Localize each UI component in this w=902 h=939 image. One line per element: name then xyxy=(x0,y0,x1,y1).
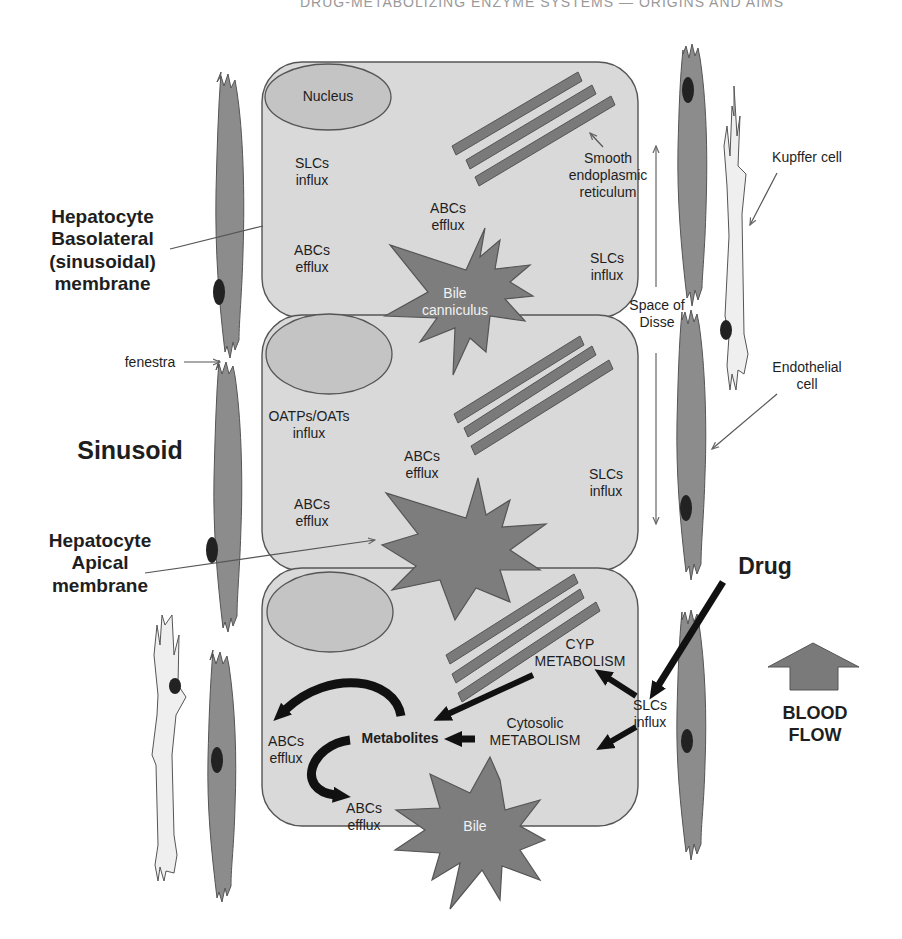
cell3-slcs-influx: SLCs influx xyxy=(620,697,680,731)
endothelial-cell-left-1 xyxy=(213,72,244,358)
cell1-slcs-influx-left: SLCs influx xyxy=(282,155,342,189)
kupffer-cell-left xyxy=(152,615,186,881)
blood-flow-label: BLOOD FLOW xyxy=(760,703,870,746)
fenestra-label: fenestra xyxy=(115,354,185,371)
bile-label: Bile xyxy=(445,818,505,835)
endothelial-pointer-arrow xyxy=(712,394,777,449)
endothelial-cell-label: Endothelial cell xyxy=(762,359,852,393)
nucleus-label: Nucleus xyxy=(290,88,366,105)
endothelial-cell-right-1 xyxy=(678,44,707,306)
nucleus-2 xyxy=(266,314,392,394)
basolateral-membrane-label: Hepatocyte Basolateral (sinusoidal) memb… xyxy=(30,206,175,296)
bile-canniculus-label: Bile canniculus xyxy=(405,285,505,319)
cell2-abcs-efflux-center: ABCs efflux xyxy=(392,448,452,482)
endothelial-cell-right-2 xyxy=(677,310,706,580)
oatps-oats-influx-label: OATPs/OATs influx xyxy=(262,408,356,442)
cell2-slcs-influx-right: SLCs influx xyxy=(576,466,636,500)
cell2-abcs-efflux-left: ABCs efflux xyxy=(282,496,342,530)
cytosolic-metabolism-label: Cytosolic METABOLISM xyxy=(470,715,600,749)
cell1-abcs-efflux-center: ABCs efflux xyxy=(418,200,478,234)
endothelial-cell-left-2 xyxy=(206,360,242,632)
kupffer-cell-right xyxy=(720,86,748,390)
space-of-disse-label: Space of Disse xyxy=(627,297,687,331)
kupffer-cell-label: Kupffer cell xyxy=(762,149,852,166)
sinusoid-label: Sinusoid xyxy=(60,435,200,465)
nucleus-3 xyxy=(267,572,393,652)
cell3-abcs-efflux-left: ABCs efflux xyxy=(258,733,314,767)
cell1-slcs-influx-right: SLCs influx xyxy=(577,250,637,284)
blood-flow-arrow-icon xyxy=(768,643,859,690)
endothelial-cell-left-3 xyxy=(208,650,236,902)
smooth-er-label: Smooth endoplasmic reticulum xyxy=(558,150,658,200)
apical-membrane-label: Hepatocyte Apical membrane xyxy=(35,530,165,597)
cell3-abcs-efflux-bottom: ABCs efflux xyxy=(334,800,394,834)
cyp-metabolism-label: CYP METABOLISM xyxy=(520,636,640,670)
metabolites-label: Metabolites xyxy=(350,730,450,747)
drug-label: Drug xyxy=(730,553,800,581)
cell1-abcs-efflux-left: ABCs efflux xyxy=(282,242,342,276)
kupffer-pointer-arrow xyxy=(750,173,777,225)
liver-sinusoid-diagram: DRUG-METABOLIZING ENZYME SYSTEMS — ORIGI… xyxy=(0,0,902,939)
